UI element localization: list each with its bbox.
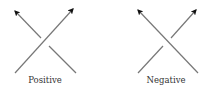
positive-label: Positive bbox=[10, 75, 80, 85]
negative-label: Negative bbox=[131, 75, 201, 85]
positive-crossing bbox=[15, 9, 76, 73]
under-strand-lower bbox=[49, 46, 76, 73]
under-strand-upper bbox=[171, 10, 196, 38]
under-strand-upper bbox=[15, 11, 41, 38]
negative-crossing bbox=[138, 10, 198, 73]
under-strand-lower bbox=[138, 46, 163, 73]
over-strand bbox=[15, 9, 73, 73]
